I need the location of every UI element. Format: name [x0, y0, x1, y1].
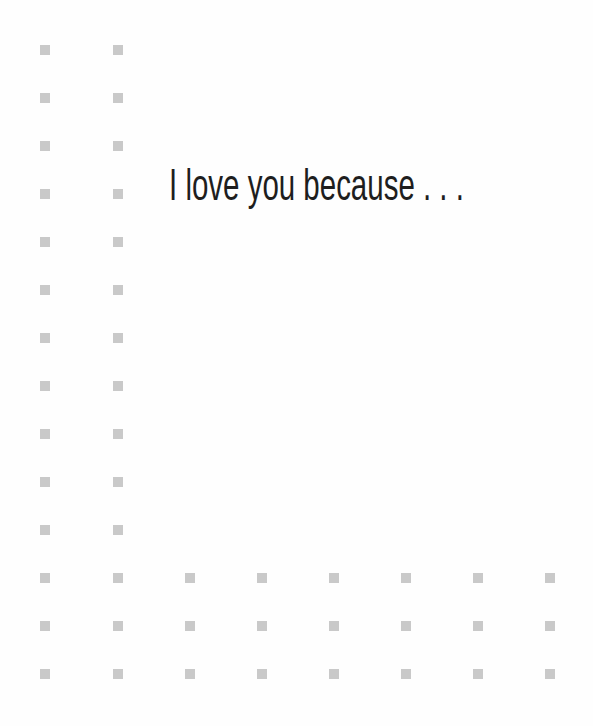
- square-dot-icon: [401, 621, 411, 631]
- card-page: I love you because . . .: [0, 0, 593, 726]
- headline-text: I love you because . . .: [169, 160, 464, 210]
- square-dot-icon: [113, 525, 123, 535]
- square-dot-icon: [113, 45, 123, 55]
- square-dot-icon: [257, 573, 267, 583]
- square-dot-icon: [113, 477, 123, 487]
- square-dot-icon: [473, 621, 483, 631]
- square-dot-icon: [113, 285, 123, 295]
- square-dot-icon: [185, 669, 195, 679]
- square-dot-icon: [329, 621, 339, 631]
- square-dot-icon: [113, 189, 123, 199]
- square-dot-icon: [545, 669, 555, 679]
- square-dot-icon: [113, 429, 123, 439]
- square-dot-icon: [40, 189, 50, 199]
- square-dot-icon: [40, 237, 50, 247]
- square-dot-icon: [40, 477, 50, 487]
- square-dot-icon: [113, 141, 123, 151]
- square-dot-icon: [113, 573, 123, 583]
- square-dot-icon: [40, 525, 50, 535]
- square-dot-icon: [545, 573, 555, 583]
- square-dot-icon: [257, 669, 267, 679]
- square-dot-icon: [40, 93, 50, 103]
- square-dot-icon: [40, 333, 50, 343]
- square-dot-icon: [40, 429, 50, 439]
- square-dot-icon: [473, 669, 483, 679]
- square-dot-icon: [545, 621, 555, 631]
- square-dot-icon: [40, 573, 50, 583]
- square-dot-icon: [329, 573, 339, 583]
- square-dot-icon: [40, 669, 50, 679]
- square-dot-icon: [185, 621, 195, 631]
- square-dot-icon: [113, 237, 123, 247]
- square-dot-icon: [257, 621, 267, 631]
- square-dot-icon: [40, 45, 50, 55]
- square-dot-icon: [113, 333, 123, 343]
- square-dot-icon: [401, 669, 411, 679]
- square-dot-icon: [40, 141, 50, 151]
- square-dot-icon: [113, 621, 123, 631]
- square-dot-icon: [113, 381, 123, 391]
- square-dot-icon: [40, 285, 50, 295]
- square-dot-icon: [185, 573, 195, 583]
- square-dot-icon: [40, 621, 50, 631]
- square-dot-icon: [473, 573, 483, 583]
- square-dot-icon: [113, 669, 123, 679]
- square-dot-icon: [113, 93, 123, 103]
- square-dot-icon: [40, 381, 50, 391]
- square-dot-icon: [401, 573, 411, 583]
- square-dot-icon: [329, 669, 339, 679]
